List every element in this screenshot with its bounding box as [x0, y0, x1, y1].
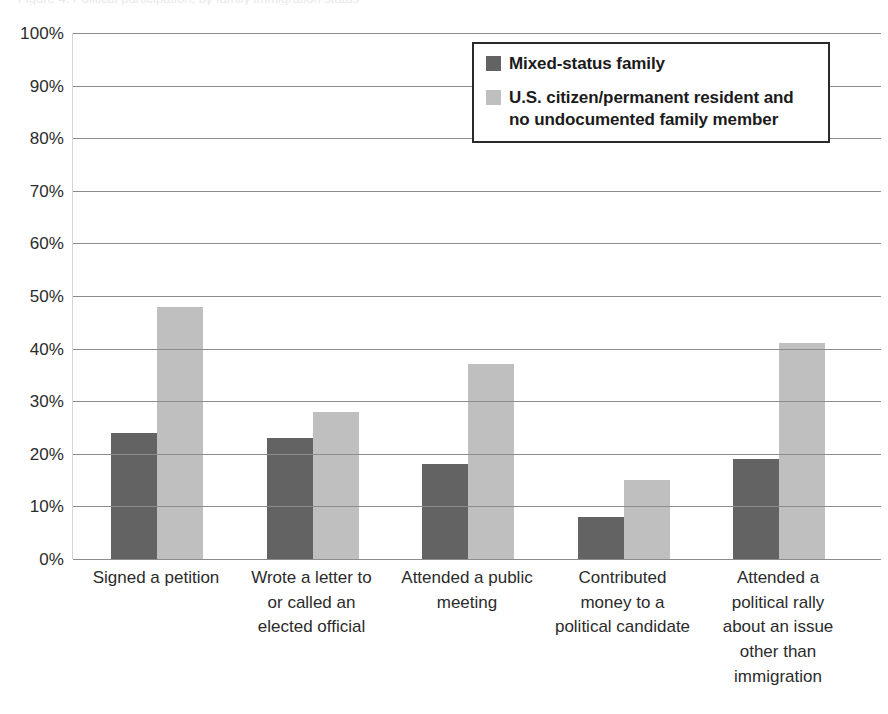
- bar: [157, 307, 203, 559]
- y-tick-label: 60%: [2, 235, 64, 252]
- y-tick-label: 70%: [2, 182, 64, 199]
- gridline: [73, 243, 881, 244]
- x-category-label: Wrote a letter toor called anelected off…: [237, 566, 387, 640]
- gridline: [73, 559, 881, 560]
- bar: [111, 433, 157, 559]
- y-tick-label: 30%: [2, 393, 64, 410]
- clipped-figure-title: Figure 4. Political participation, by fa…: [18, 0, 658, 5]
- y-axis: 0%10%20%30%40%50%60%70%80%90%100%: [0, 0, 64, 714]
- x-category-label-line: Signed a petition: [81, 566, 231, 591]
- legend-label-mixed-status: Mixed-status family: [509, 53, 665, 74]
- x-category-label-line: Contributed: [548, 566, 698, 591]
- y-tick-label: 80%: [2, 130, 64, 147]
- y-tick-label: 90%: [2, 77, 64, 94]
- bar: [313, 412, 359, 559]
- y-tick-label: 100%: [2, 25, 64, 42]
- x-category-label-line: other than: [703, 640, 853, 665]
- x-category-label-line: immigration: [703, 665, 853, 690]
- legend-swatch-dark: [486, 56, 501, 71]
- y-tick-label: 40%: [2, 340, 64, 357]
- x-category-label-line: or called an: [237, 591, 387, 616]
- chart-legend: Mixed-status family U.S. citizen/permane…: [472, 42, 830, 143]
- x-category-label-line: about an issue: [703, 615, 853, 640]
- bar: [578, 517, 624, 559]
- gridline: [73, 349, 881, 350]
- y-tick-label: 10%: [2, 498, 64, 515]
- gridline: [73, 401, 881, 402]
- x-category-label-line: political rally: [703, 591, 853, 616]
- x-category-label: Attended a publicmeeting: [392, 566, 542, 615]
- x-category-label-line: political candidate: [548, 615, 698, 640]
- gridline: [73, 191, 881, 192]
- gridline: [73, 454, 881, 455]
- legend-label-citizen: U.S. citizen/permanent resident and no u…: [509, 87, 818, 130]
- x-category-label: Signed a petition: [81, 566, 231, 591]
- legend-entry-citizen: U.S. citizen/permanent resident and no u…: [486, 87, 818, 130]
- x-category-label-line: Wrote a letter to: [237, 566, 387, 591]
- x-category-label-line: Attended a: [703, 566, 853, 591]
- bar: [733, 459, 779, 559]
- gridline: [73, 33, 881, 34]
- y-tick-label: 20%: [2, 445, 64, 462]
- bar: [468, 364, 514, 559]
- x-category-label-line: Attended a public: [392, 566, 542, 591]
- bar: [267, 438, 313, 559]
- gridline: [73, 506, 881, 507]
- x-axis-labels: Signed a petitionWrote a letter toor cal…: [72, 566, 880, 714]
- x-category-label-line: money to a: [548, 591, 698, 616]
- gridline: [73, 296, 881, 297]
- bar-chart: Figure 4. Political participation, by fa…: [0, 0, 888, 714]
- bar: [624, 480, 670, 559]
- x-category-label: Contributedmoney to apolitical candidate: [548, 566, 698, 640]
- y-tick-label: 50%: [2, 288, 64, 305]
- y-tick-label: 0%: [2, 551, 64, 568]
- x-category-label-line: elected official: [237, 615, 387, 640]
- bar: [422, 464, 468, 559]
- x-category-label-line: meeting: [392, 591, 542, 616]
- legend-swatch-light: [486, 90, 501, 105]
- x-category-label: Attended apolitical rallyabout an issueo…: [703, 566, 853, 689]
- bar: [779, 343, 825, 559]
- legend-entry-mixed-status: Mixed-status family: [486, 53, 818, 74]
